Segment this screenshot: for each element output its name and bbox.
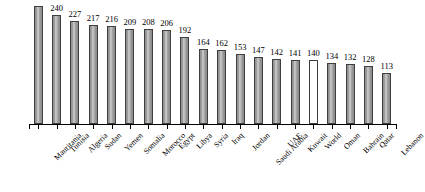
axis-tick [185, 125, 186, 129]
bar-sudan [89, 25, 98, 124]
axis-tick [112, 125, 113, 129]
axis-tick [167, 125, 168, 129]
bar-world [309, 60, 318, 124]
bar-tunisia [52, 15, 61, 124]
axis-tick [332, 125, 333, 129]
axis-tick [57, 125, 58, 129]
bar-jordan [236, 54, 245, 124]
bar-somalia [125, 29, 134, 124]
axis-tick [350, 125, 351, 129]
bar-bahrain [346, 64, 355, 124]
axis-tick [222, 125, 223, 129]
axis-tick [277, 125, 278, 129]
axis-tick [313, 125, 314, 129]
axis-tick [295, 125, 296, 129]
axis-tick [387, 125, 388, 129]
category-label-syria: Syria [212, 131, 230, 149]
axis-tick [38, 125, 39, 129]
bar-syria [199, 49, 208, 124]
bar-iraq [217, 50, 226, 124]
bar-morocco [144, 29, 153, 124]
bar-kuwait [291, 60, 300, 124]
value-label-libya: 192 [171, 26, 199, 35]
category-label-libya: Libya [194, 131, 214, 151]
bar-libya [180, 37, 189, 124]
bar-algeria [70, 21, 79, 124]
x-axis-line [29, 124, 397, 125]
value-label-lebanon: 113 [373, 62, 401, 71]
axis-tick [368, 125, 369, 129]
x-axis-left-end [29, 124, 30, 129]
bar-lebanon [382, 73, 391, 124]
axis-tick [75, 125, 76, 129]
bar-yemen [107, 26, 116, 124]
axis-tick [240, 125, 241, 129]
category-label-oman: Oman [341, 131, 361, 151]
bar-mauritania [34, 6, 43, 124]
category-label-jordan: Jordan [250, 131, 271, 152]
bar-egypt [162, 30, 171, 124]
bar-uae [272, 59, 281, 124]
category-label-lebanon: Lebanon [399, 131, 425, 157]
axis-tick [130, 125, 131, 129]
axis-tick [258, 125, 259, 129]
bar-oman [327, 63, 336, 124]
axis-tick [148, 125, 149, 129]
bar-qatar [364, 66, 373, 124]
category-label-iraq: Iraq [229, 131, 244, 146]
bar-saudi-arabia [254, 57, 263, 124]
category-label-yemen: Yemen [122, 131, 144, 153]
axis-tick [93, 125, 94, 129]
x-axis-right-end [396, 124, 397, 129]
axis-tick [203, 125, 204, 129]
